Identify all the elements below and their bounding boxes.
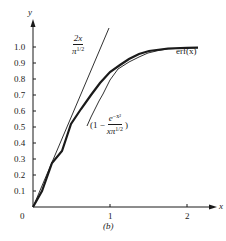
y-tick-label: 0.5	[14, 123, 25, 132]
y-tick-label: 0.8	[14, 75, 25, 84]
x-axis-arrow-icon	[209, 205, 217, 210]
y-tick-label: 1.0	[14, 43, 25, 52]
y-tick-label: 0.2	[14, 171, 25, 180]
y-axis	[31, 19, 37, 207]
asymptotic-label: (1 − e−x² xπ1/2 )	[90, 113, 128, 136]
x-tick-label: 2	[185, 212, 190, 221]
x-tick-label: 1	[108, 212, 113, 221]
x-axis-label: x	[219, 202, 223, 211]
y-tick-label: 0.6	[14, 107, 25, 116]
y-tick-label: 0.9	[14, 59, 25, 68]
panel-label: (b)	[103, 222, 114, 231]
y-tick-label: 0.1	[14, 187, 25, 196]
tangent-label: 2x π1/2	[72, 34, 84, 56]
y-axis-label: y	[28, 8, 32, 17]
y-tick-label: 0.7	[14, 91, 25, 100]
x-axis	[33, 204, 217, 210]
y-axis-arrow-icon	[31, 19, 36, 27]
y-tick-label: 0.4	[14, 139, 25, 148]
origin-label: 0	[20, 212, 25, 221]
erf-label: erf(x)	[176, 47, 196, 56]
y-tick-label: 0.3	[14, 155, 25, 164]
